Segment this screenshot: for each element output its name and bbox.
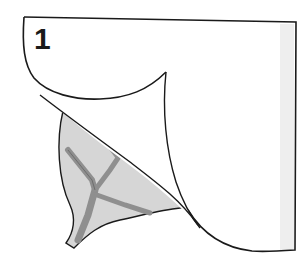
step-number-label: 1 [34, 24, 51, 54]
diagram-canvas: 1 [0, 0, 306, 261]
